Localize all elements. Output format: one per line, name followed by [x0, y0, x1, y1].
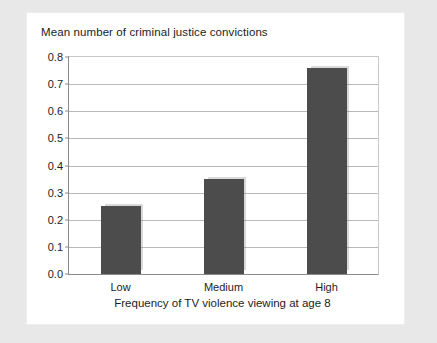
y-axis-tick-label: 0.0 [48, 268, 63, 280]
y-axis-tick-label: 0.6 [48, 105, 63, 117]
bar-low [101, 206, 141, 274]
y-axis-tick-mark [65, 138, 69, 139]
y-axis-tick-label: 0.7 [48, 78, 63, 90]
y-axis-tick-label: 0.1 [48, 241, 63, 253]
x-axis-title: Frequency of TV violence viewing at age … [68, 297, 377, 309]
bar-medium [204, 179, 244, 274]
x-axis-tick-label: Medium [204, 281, 243, 293]
figure-root: Mean number of criminal justice convicti… [0, 0, 437, 343]
y-axis-tick-mark [65, 165, 69, 166]
y-axis-tick-mark [65, 84, 69, 85]
y-axis-tick-mark [65, 57, 69, 58]
y-axis-tick-mark [65, 111, 69, 112]
y-axis-tick-label: 0.4 [48, 160, 63, 172]
bar-high [307, 68, 347, 274]
y-axis-tick-label: 0.8 [48, 51, 63, 63]
y-axis-tick-mark [65, 219, 69, 220]
y-axis-tick-label: 0.2 [48, 214, 63, 226]
chart-title: Mean number of criminal justice convicti… [41, 26, 268, 38]
x-axis-tick-label: High [315, 281, 338, 293]
y-axis-tick-mark [65, 192, 69, 193]
y-axis-tick-mark [65, 274, 69, 275]
y-axis-tick-label: 0.3 [48, 187, 63, 199]
x-axis-tick-label: Low [110, 281, 130, 293]
y-axis-tick-label: 0.5 [48, 132, 63, 144]
plot-area: 0.00.10.20.30.40.50.60.70.8 LowMediumHig… [68, 56, 379, 275]
y-axis-tick-mark [65, 246, 69, 247]
